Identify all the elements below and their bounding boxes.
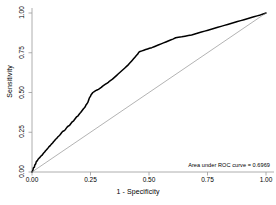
auc-annotation: Area under ROC curve = 0.6969 xyxy=(188,162,270,168)
x-tick-label: 0.00 xyxy=(26,176,39,183)
y-tick-label: 0.50 xyxy=(18,81,25,103)
y-tick-label: 0.25 xyxy=(18,121,25,143)
roc-chart: 1 - Specificity Sensitivity 0.000.250.50… xyxy=(0,0,276,205)
x-tick-label: 0.50 xyxy=(143,176,156,183)
reference-diagonal-line xyxy=(32,13,266,172)
x-tick-label: 1.00 xyxy=(260,176,273,183)
chart-canvas xyxy=(0,0,276,205)
y-tick-label: 0.00 xyxy=(18,161,25,183)
x-axis-title: 1 - Specificity xyxy=(0,188,276,195)
x-tick-label: 0.75 xyxy=(201,176,214,183)
y-tick-label: 0.75 xyxy=(18,41,25,63)
x-tick-label: 0.25 xyxy=(84,176,97,183)
y-tick-label: 1.00 xyxy=(18,2,25,24)
y-axis-title: Sensitivity xyxy=(6,47,13,117)
